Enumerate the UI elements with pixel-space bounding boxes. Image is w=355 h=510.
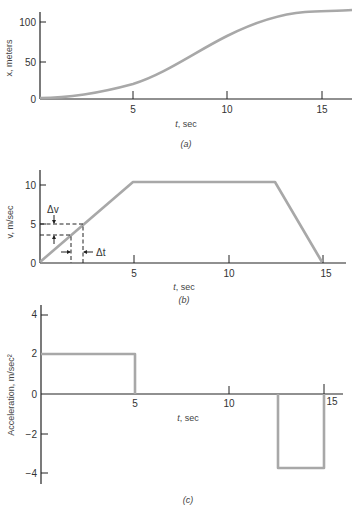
- x-tick-label: 10: [221, 104, 233, 115]
- delta-t-arrows: [61, 250, 93, 254]
- x-tick-label: 15: [316, 104, 328, 115]
- y-tick-label: 50: [25, 57, 37, 68]
- y-tick-label: 10: [25, 180, 37, 191]
- caption-b: (b): [179, 295, 190, 305]
- y-tick-label: −2: [26, 429, 38, 440]
- y-axis-title: v, m/sec: [5, 205, 15, 238]
- y-tick-label: 0: [31, 389, 37, 400]
- x-axis-title: t, sec: [175, 119, 197, 129]
- x-tick-label: 5: [130, 104, 136, 115]
- y-tick-label: 0: [30, 258, 36, 269]
- figure: 100 50 0 5 10 15 x, meters t, sec (a) 10…: [0, 0, 355, 510]
- x-tick-label: 10: [223, 268, 235, 279]
- acceleration-positive-segment: [41, 354, 135, 394]
- y-tick-label: 5: [30, 219, 36, 230]
- caption-a: (a): [181, 139, 192, 149]
- y-tick-label: 4: [31, 309, 37, 320]
- y-axis-title: x, meters: [4, 39, 14, 77]
- delta-v-arrows: [52, 215, 56, 244]
- acceleration-negative-segment: [278, 394, 324, 468]
- y-axis-title: Acceleration, m/sec²: [6, 354, 16, 436]
- x-tick-label: 10: [223, 398, 235, 409]
- x-axis-title: t, sec: [173, 282, 195, 292]
- y-tick-label: 0: [30, 94, 36, 105]
- chart-c: 4 2 0 −2 −4 5 10 15 Acceleration, m/sec²…: [6, 305, 343, 505]
- delta-t-label: Δt: [96, 247, 106, 258]
- chart-a: 100 50 0 5 10 15 x, meters t, sec (a): [4, 10, 352, 149]
- caption-c: (c): [183, 495, 194, 505]
- position-curve: [40, 10, 352, 98]
- y-tick-label: 100: [19, 17, 36, 28]
- x-tick-label: 15: [320, 268, 332, 279]
- x-tick-label: 5: [132, 398, 138, 409]
- x-tick-label: 15: [326, 396, 338, 407]
- x-axis-title: t, sec: [177, 413, 199, 423]
- chart-b: 10 5 0 5 10 15 Δv Δt v, m/sec t,: [5, 170, 346, 305]
- y-tick-label: −4: [26, 468, 38, 479]
- x-tick-label: 5: [131, 268, 137, 279]
- velocity-curve: [40, 182, 322, 262]
- y-tick-label: 2: [31, 348, 37, 359]
- delta-v-label: Δv: [47, 204, 59, 215]
